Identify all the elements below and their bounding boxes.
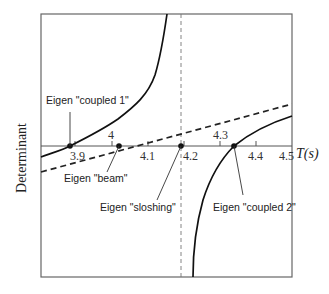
determinant-chart: 3.9 4 4.1 4.2 4.3 4.4 4.5 T(s) Determina… (0, 0, 329, 294)
tick-label-4: 4 (108, 128, 114, 142)
annotation-beam: Eigen "beam" (64, 172, 128, 184)
x-axis-label: T(s) (296, 146, 319, 162)
tick-label-4.2: 4.2 (183, 149, 198, 163)
x-axis-ticks (75, 141, 256, 146)
annotation-coupled1: Eigen "coupled 1" (46, 94, 129, 106)
y-axis-label: Determinant (14, 123, 29, 193)
tick-label-4.1: 4.1 (140, 149, 155, 163)
annotation-leaders (70, 112, 243, 200)
coupled-curve-left (41, 14, 167, 157)
annotation-coupled2: Eigen "coupled 2" (213, 201, 296, 213)
coupled-curve-right (193, 116, 292, 277)
tick-label-4.4: 4.4 (248, 149, 263, 163)
tick-label-4.3: 4.3 (213, 128, 228, 142)
tick-label-4.5: 4.5 (279, 149, 294, 163)
annotation-sloshing: Eigen "sloshing" (100, 201, 176, 213)
